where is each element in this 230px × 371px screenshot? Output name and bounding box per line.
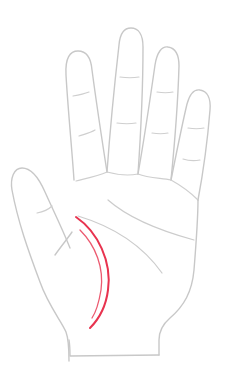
ring-finger-crease-lower (152, 133, 168, 134)
life-line (76, 217, 109, 328)
little-finger-crease-upper (188, 128, 204, 129)
thumb-inner-edge (55, 232, 72, 255)
thumb-crease (37, 206, 52, 213)
index-finger-crease-upper (73, 92, 89, 96)
little-finger-crease-lower (183, 159, 200, 161)
middle-finger-crease-upper (120, 77, 139, 78)
index-finger-crease-lower (79, 130, 95, 136)
finger-base-line (76, 172, 198, 200)
highlighted-lines (76, 217, 109, 328)
middle-finger-outline (107, 28, 143, 174)
index-finger-outline (66, 51, 107, 180)
hand-outline (11, 28, 210, 361)
thumb-outline (11, 168, 70, 361)
palm-right-edge (159, 200, 198, 355)
heart-line (108, 200, 194, 240)
ring-finger-crease-upper (157, 92, 173, 93)
ring-finger-outline (138, 47, 179, 180)
palm-diagram (0, 0, 230, 371)
middle-finger-crease-lower (117, 123, 136, 124)
hand-illustration (0, 0, 230, 371)
wrist-outline (69, 340, 159, 356)
